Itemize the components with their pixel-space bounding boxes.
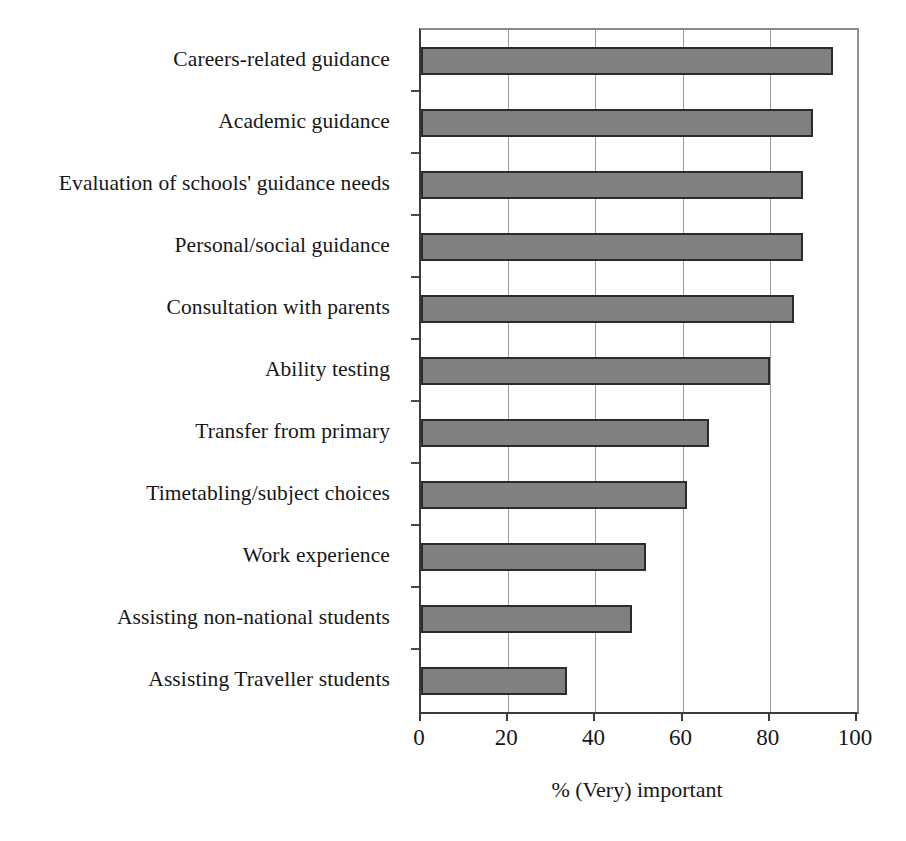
bar-series — [421, 30, 857, 712]
x-axis-tick-marks — [419, 712, 855, 722]
bar-chart: Careers-related guidanceAcademic guidanc… — [0, 0, 906, 841]
bar — [421, 605, 632, 633]
category-label: Evaluation of schools' guidance needs — [0, 171, 404, 195]
x-axis-tick-labels: 020406080100 — [419, 724, 855, 758]
plot-area — [419, 28, 859, 714]
x-axis-tick-label: 60 — [669, 724, 692, 752]
x-axis-title: % (Very) important — [419, 776, 855, 804]
category-label: Ability testing — [0, 357, 404, 381]
gridline — [857, 30, 858, 712]
x-axis-tick — [506, 712, 508, 721]
bar — [421, 47, 833, 75]
bar — [421, 667, 567, 695]
category-label: Timetabling/subject choices — [0, 481, 404, 505]
category-label: Consultation with parents — [0, 295, 404, 319]
x-axis-tick — [768, 712, 770, 721]
x-axis-tick-label: 20 — [495, 724, 518, 752]
x-axis-tick — [855, 712, 857, 721]
x-axis-tick-label: 80 — [756, 724, 779, 752]
category-label: Work experience — [0, 543, 404, 567]
x-axis-tick — [419, 712, 421, 721]
x-axis-tick — [681, 712, 683, 721]
category-label: Academic guidance — [0, 109, 404, 133]
bar — [421, 171, 803, 199]
category-label: Assisting non-national students — [0, 605, 404, 629]
category-label: Personal/social guidance — [0, 233, 404, 257]
bar — [421, 481, 687, 509]
x-axis-tick-label: 0 — [413, 724, 425, 752]
x-axis-tick-label: 40 — [582, 724, 605, 752]
x-axis-tick — [593, 712, 595, 721]
category-label: Transfer from primary — [0, 419, 404, 443]
y-axis-category-labels: Careers-related guidanceAcademic guidanc… — [0, 28, 404, 710]
bar — [421, 419, 709, 447]
bar — [421, 543, 646, 571]
category-label: Careers-related guidance — [0, 47, 404, 71]
bar — [421, 357, 770, 385]
x-axis-tick-label: 100 — [838, 724, 873, 752]
bar — [421, 109, 813, 137]
bar — [421, 295, 794, 323]
category-label: Assisting Traveller students — [0, 667, 404, 691]
bar — [421, 233, 803, 261]
